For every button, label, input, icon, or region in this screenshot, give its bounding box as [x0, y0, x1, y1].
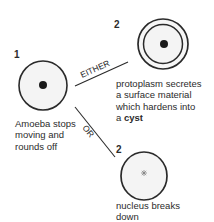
stage2-breakdown-number: 2 — [116, 144, 122, 155]
stage1-caption: Amoeba stops moving and rounds off — [15, 118, 76, 152]
or-label: OR — [80, 123, 96, 139]
cyst-nucleus-dot — [160, 40, 168, 48]
breakdown-caption: nucleus breaks down — [116, 200, 180, 222]
caption-line: protoplasm secretes — [116, 78, 202, 89]
breakdown-cell — [121, 152, 167, 200]
fragmented-nucleus-icon — [141, 170, 147, 176]
cyst-cell — [138, 19, 188, 69]
caption-line: moving and — [15, 129, 76, 140]
caption-line: which hardens into — [116, 101, 202, 112]
caption-line-last: a cyst — [116, 112, 202, 123]
caption-prefix: a — [116, 112, 124, 123]
nucleus-dot — [39, 81, 47, 89]
amoeba-cell-stage1 — [19, 61, 67, 110]
cyst-caption: protoplasm secretes a surface material w… — [116, 78, 202, 123]
stage2-cyst-number: 2 — [114, 19, 120, 30]
caption-line: a surface material — [116, 89, 202, 100]
caption-line: rounds off — [15, 141, 76, 152]
caption-line: Amoeba stops — [15, 118, 76, 129]
cyst-term: cyst — [124, 112, 143, 123]
caption-line: nucleus breaks — [116, 200, 180, 211]
caption-line: down — [116, 211, 180, 222]
stage1-number: 1 — [14, 49, 20, 60]
